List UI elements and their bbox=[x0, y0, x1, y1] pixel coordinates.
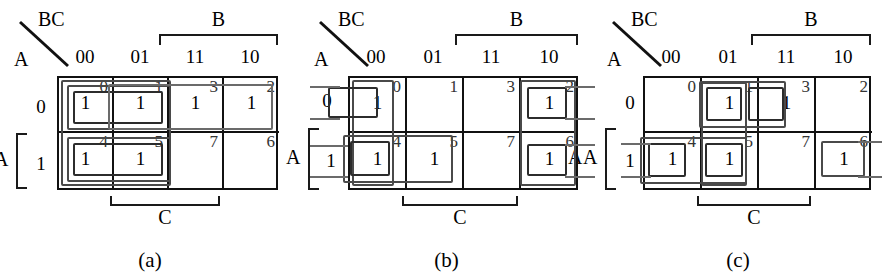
kmap-cell-4[interactable]: 4 1 bbox=[59, 133, 114, 188]
wrap-line-row1-right-bottom bbox=[858, 176, 882, 178]
cell-value: 1 bbox=[224, 92, 279, 114]
wrap-line-row0-left-top bbox=[310, 86, 340, 88]
cell-value: 1 bbox=[407, 148, 462, 170]
row-bracket-bar bbox=[308, 128, 319, 190]
top-bracket-bar bbox=[751, 34, 871, 45]
cell-value: 1 bbox=[759, 92, 814, 114]
bottom-bracket-label: C bbox=[402, 206, 518, 229]
corner-bottom-label: A bbox=[314, 48, 328, 71]
column-header-00: 00 bbox=[348, 46, 404, 68]
bottom-bracket-label: C bbox=[697, 206, 811, 229]
cell-value: 1 bbox=[521, 148, 578, 170]
kmap-grid-b: 0 1 1 3 2 1 4 1 5 1 7 6 1 bbox=[348, 76, 578, 190]
wrap-line-row0-left-bottom bbox=[310, 118, 340, 120]
kmap-cell-1[interactable]: 1 bbox=[407, 78, 464, 133]
cell-value: 1 bbox=[645, 148, 700, 170]
kmap-cell-2[interactable]: 2 bbox=[816, 78, 872, 133]
row-bracket-label: A bbox=[286, 146, 300, 169]
wrap-line-row1-right-bottom bbox=[565, 176, 595, 178]
cell-index: 1 bbox=[450, 77, 459, 97]
kmap-cell-7[interactable]: 7 bbox=[464, 133, 521, 188]
row-bracket-label: A bbox=[0, 148, 8, 171]
cell-value: 1 bbox=[114, 92, 167, 114]
kmap-cell-1[interactable]: 1 1 bbox=[702, 78, 759, 133]
row-header-1: 1 bbox=[621, 150, 639, 172]
kmap-cell-0[interactable]: 0 1 bbox=[350, 78, 407, 133]
cell-index: 3 bbox=[507, 77, 516, 97]
row-header-1: 1 bbox=[32, 153, 50, 175]
kmap-figure-a: BC A B 00 01 11 10 0 1 A 0 1 1 1 3 1 2 1 bbox=[0, 0, 300, 277]
wrap-line-row0-right-bottom bbox=[565, 118, 595, 120]
corner-bottom-label: A bbox=[607, 48, 621, 71]
kmap-grid-c: 0 1 1 3 1 2 4 1 5 1 7 6 1 bbox=[643, 76, 871, 190]
bottom-bracket-label: C bbox=[110, 206, 220, 229]
kmap-cell-1[interactable]: 1 1 bbox=[114, 78, 169, 133]
kmap-cell-2[interactable]: 2 1 bbox=[224, 78, 279, 133]
row-bracket-label: A bbox=[583, 146, 597, 169]
top-bracket-label: B bbox=[455, 8, 578, 31]
wrap-line-row1-left-bottom bbox=[310, 176, 348, 178]
row-header-1: 1 bbox=[322, 150, 340, 172]
kmap-cell-3[interactable]: 3 1 bbox=[169, 78, 224, 133]
kmap-cell-6[interactable]: 6 1 bbox=[521, 133, 578, 188]
cell-value: 1 bbox=[114, 148, 167, 170]
kmap-cell-4[interactable]: 4 1 bbox=[645, 133, 702, 188]
row-bracket-bar bbox=[605, 128, 616, 190]
column-header-11: 11 bbox=[463, 46, 519, 68]
top-bracket-label: B bbox=[159, 8, 278, 31]
kmap-cell-7[interactable]: 7 bbox=[169, 133, 224, 188]
cell-value: 1 bbox=[59, 92, 112, 114]
cell-index: 2 bbox=[860, 77, 869, 97]
row-header-0: 0 bbox=[32, 96, 50, 118]
kmap-cell-6[interactable]: 6 bbox=[224, 133, 279, 188]
kmap-cell-0[interactable]: 0 1 bbox=[59, 78, 114, 133]
cell-index: 7 bbox=[507, 132, 516, 152]
figure-caption-a: (a) bbox=[0, 248, 300, 273]
row-bracket-a-a: A bbox=[8, 133, 28, 189]
cell-value: 1 bbox=[169, 92, 222, 114]
top-bracket-bar bbox=[159, 34, 278, 45]
row-bracket-a-b: A bbox=[300, 128, 320, 190]
kmap-cell-5[interactable]: 5 1 bbox=[702, 133, 759, 188]
kmap-cell-5[interactable]: 5 1 bbox=[407, 133, 464, 188]
kmap-cell-0[interactable]: 0 bbox=[645, 78, 702, 133]
kmap-cell-7[interactable]: 7 bbox=[759, 133, 816, 188]
cell-value: 1 bbox=[702, 92, 757, 114]
column-header-01: 01 bbox=[700, 46, 756, 68]
cell-value: 1 bbox=[350, 92, 405, 114]
column-header-01: 01 bbox=[112, 46, 168, 68]
column-header-01: 01 bbox=[405, 46, 461, 68]
wrap-line-row0-right-top bbox=[565, 86, 595, 88]
kmap-cell-5[interactable]: 5 1 bbox=[114, 133, 169, 188]
kmap-figure-b: BC A B 00 01 11 10 0 1 A A 0 1 1 3 2 1 bbox=[300, 0, 593, 277]
cell-value: 1 bbox=[59, 148, 112, 170]
kmap-figure-c: BC A B 00 01 11 10 0 1 A 0 1 1 3 1 2 bbox=[593, 0, 883, 277]
bottom-bracket-bar bbox=[110, 196, 220, 206]
kmap-cell-3[interactable]: 3 bbox=[464, 78, 521, 133]
kmap-cell-4[interactable]: 4 1 bbox=[350, 133, 407, 188]
row-bracket-bar bbox=[16, 133, 27, 189]
top-bracket-bar bbox=[455, 34, 578, 45]
bottom-bracket-bar bbox=[402, 196, 518, 206]
bottom-bracket-bar bbox=[697, 196, 811, 206]
wrap-line-row1-left-top bbox=[621, 143, 651, 145]
cell-value: 1 bbox=[521, 92, 578, 114]
column-header-10: 10 bbox=[222, 46, 278, 68]
cell-index: 7 bbox=[210, 132, 219, 152]
column-header-11: 11 bbox=[758, 46, 814, 68]
column-header-10: 10 bbox=[815, 46, 871, 68]
row-header-0: 0 bbox=[318, 90, 336, 112]
wrap-line-row1-right-top bbox=[858, 141, 882, 143]
cell-value: 1 bbox=[816, 148, 872, 170]
column-header-00: 00 bbox=[643, 46, 699, 68]
cell-index: 6 bbox=[267, 132, 276, 152]
figure-caption-b: (b) bbox=[300, 248, 593, 273]
figure-caption-c: (c) bbox=[593, 248, 883, 273]
column-header-00: 00 bbox=[57, 46, 113, 68]
kmap-grid-a: 0 1 1 1 3 1 2 1 4 1 5 1 7 6 bbox=[57, 76, 278, 190]
wrap-line-row1-left-top bbox=[310, 145, 348, 147]
column-header-10: 10 bbox=[521, 46, 577, 68]
cell-value: 1 bbox=[350, 148, 405, 170]
column-header-11: 11 bbox=[167, 46, 223, 68]
kmap-cell-3[interactable]: 3 1 bbox=[759, 78, 816, 133]
